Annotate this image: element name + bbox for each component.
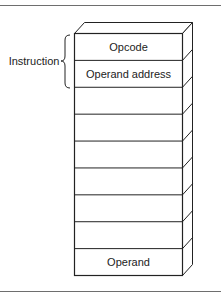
instruction-brace: Instruction — [9, 35, 70, 88]
stack-side-face — [183, 23, 193, 276]
memory-stack-diagram: OpcodeOperand addressOperand Instruction — [0, 0, 221, 297]
cell-label: Operand address — [86, 68, 171, 80]
stack-cell: Operand — [107, 256, 150, 268]
brace-icon — [61, 35, 70, 88]
stack-top-face — [75, 23, 193, 34]
cell-label: Opcode — [109, 41, 148, 53]
cell-label: Operand — [107, 256, 150, 268]
instruction-label: Instruction — [9, 55, 60, 67]
